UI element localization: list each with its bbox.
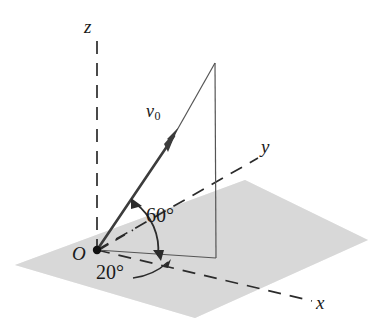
diagram-canvas <box>0 0 385 332</box>
origin-point <box>93 246 101 254</box>
physics-diagram: z y x O v0 60° 20° <box>0 0 385 332</box>
elevation-angle-label: 60° <box>146 204 174 227</box>
x-axis-label: x <box>316 292 324 314</box>
azimuth-angle-label: 20° <box>96 261 124 284</box>
y-axis-label: y <box>261 136 269 158</box>
velocity-vector-label: v0 <box>146 101 161 124</box>
z-axis-label: z <box>84 16 91 38</box>
velocity-subscript: 0 <box>155 109 161 123</box>
velocity-symbol: v <box>146 101 154 121</box>
origin-label: O <box>72 243 86 265</box>
vector-extension-line <box>172 63 215 139</box>
